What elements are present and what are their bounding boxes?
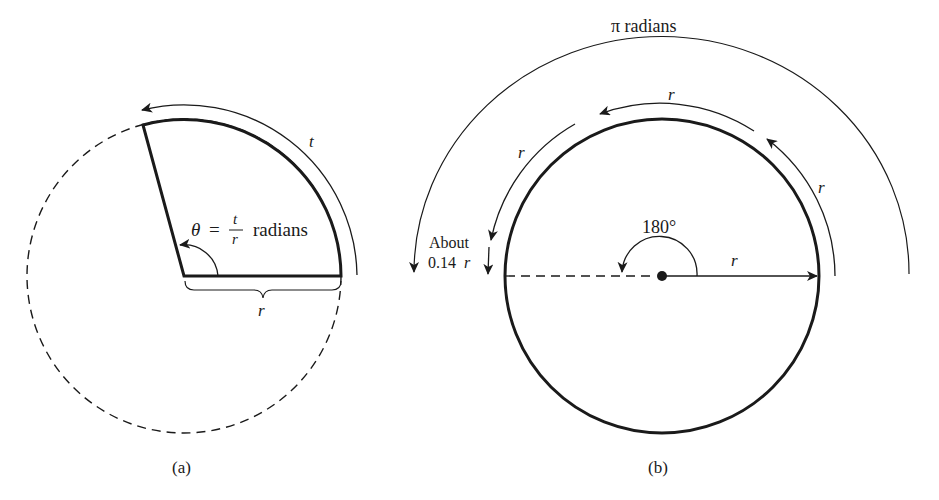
radius-label-b: r <box>731 251 738 270</box>
panel-b: r 180° r r r About 0.14 r π radians (b) <box>414 16 909 477</box>
radius-label-a: r <box>258 301 265 320</box>
pi-radians-label: π radians <box>611 16 677 36</box>
angle-180-arrow <box>622 236 697 276</box>
theta-symbol: θ <box>191 219 200 240</box>
remainder-var: r <box>464 254 471 271</box>
arc-t-label: t <box>309 132 315 151</box>
arc-r-right <box>767 139 835 276</box>
arc-r-left <box>491 124 575 240</box>
center-point <box>657 271 667 281</box>
remainder-arrow <box>488 247 489 274</box>
radius-brace <box>185 281 341 298</box>
theta-unit: radians <box>253 219 308 240</box>
angle-180-label: 180° <box>642 217 676 237</box>
arc-r-left-label: r <box>518 143 525 162</box>
remainder-value: 0.14 <box>428 254 456 271</box>
remainder-label-line2: 0.14 r <box>428 254 471 271</box>
equals-sign: = <box>209 219 220 240</box>
remainder-label-line1: About <box>429 234 470 251</box>
caption-b: (b) <box>648 458 668 477</box>
arc-r-top-label: r <box>668 85 675 104</box>
outer-pi-arc <box>414 37 909 274</box>
panel-a: t θ = t r radians r (a) <box>27 105 357 477</box>
radian-definition-figure: t θ = t r radians r (a) r 180° <box>0 0 939 500</box>
fraction-denominator: r <box>232 231 238 247</box>
arc-r-top <box>600 103 754 131</box>
arc-r-right-label: r <box>818 178 825 197</box>
caption-a: (a) <box>172 458 191 477</box>
